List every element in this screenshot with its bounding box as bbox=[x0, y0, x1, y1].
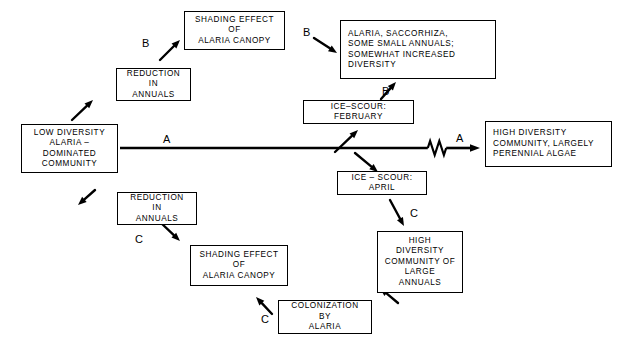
node-alaria-saccorhiza-diversity: ALARIA, SACCORHIZA, SOME SMALL ANNUALS; … bbox=[340, 20, 496, 79]
path-label-a-right: A bbox=[456, 132, 464, 144]
arrow-main-to-icescour-april-shaft bbox=[355, 153, 371, 167]
arrow-reduction-to-shading-shaft bbox=[160, 46, 174, 60]
succession-diagram: LOW DIVERSITY ALARIA – DOMINATED COMMUNI… bbox=[0, 0, 624, 346]
arrow-april-to-large-annuals-head bbox=[397, 217, 404, 226]
path-label-b-left: B bbox=[142, 37, 150, 49]
path-label-b-top: B bbox=[303, 26, 311, 38]
node-ice-scour-april: ICE – SCOUR: APRIL bbox=[337, 171, 427, 195]
node-shading-effect-lower: SHADING EFFECT OF ALARIA CANOPY bbox=[190, 245, 288, 286]
main-pathway-arrow-head bbox=[470, 144, 480, 152]
arrow-layer bbox=[0, 0, 624, 346]
arrow-april-to-large-annuals-shaft bbox=[390, 200, 400, 219]
node-reduction-in-annuals-upper: REDUCTION IN ANNUALS bbox=[116, 68, 191, 101]
path-label-c-left: C bbox=[135, 233, 143, 245]
path-label-b-bottom: B bbox=[382, 85, 390, 97]
node-shading-effect-upper: SHADING EFFECT OF ALARIA CANOPY bbox=[184, 11, 285, 50]
node-high-diversity-large-annuals: HIGH DIVERSITY COMMUNITY OF LARGE ANNUAL… bbox=[377, 231, 463, 293]
arrow-reduction-to-low-shaft bbox=[84, 190, 95, 199]
path-label-c-right: C bbox=[410, 207, 418, 219]
node-reduction-in-annuals-lower: REDUCTION IN ANNUALS bbox=[117, 192, 197, 225]
path-label-a-left: A bbox=[163, 133, 171, 145]
main-pathway-break-zigzag-icon bbox=[428, 141, 446, 155]
main-pathway-axis bbox=[120, 141, 480, 155]
node-high-diversity-perennial: HIGH DIVERSITY COMMUNITY, LARGELY PERENN… bbox=[485, 121, 612, 167]
arrow-annuals-to-colonization-shaft bbox=[387, 293, 398, 303]
node-low-diversity-community: LOW DIVERSITY ALARIA – DOMINATED COMMUNI… bbox=[21, 124, 118, 173]
node-colonization-by-alaria: COLONIZATION BY ALARIA bbox=[278, 300, 372, 334]
arrow-main-to-icescour-feb-shaft bbox=[335, 136, 352, 152]
path-label-c-bottom: C bbox=[261, 313, 269, 325]
arrow-low-to-reduction-shaft bbox=[72, 106, 87, 120]
arrow-shading-to-alaria-shaft bbox=[314, 38, 330, 48]
node-ice-scour-february: ICE–SCOUR: FEBRUARY bbox=[303, 100, 414, 124]
